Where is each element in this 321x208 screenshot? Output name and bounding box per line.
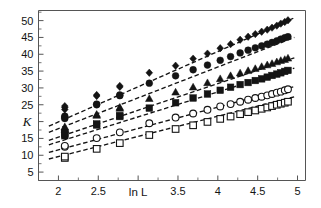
data-point-open-square: [252, 107, 259, 114]
data-point-filled-square: [117, 112, 124, 119]
data-point-filled-square: [285, 67, 292, 74]
data-point-open-circle: [245, 96, 252, 103]
series-layer: [49, 17, 294, 162]
data-point-open-square: [217, 116, 224, 123]
data-point-filled-circle: [204, 62, 211, 69]
data-point-filled-diamond: [172, 62, 179, 69]
data-point-open-square: [227, 113, 234, 120]
data-point-filled-triangle: [93, 111, 101, 118]
data-point-open-square: [204, 119, 211, 126]
data-point-filled-circle: [61, 113, 68, 120]
data-point-filled-diamond: [204, 50, 211, 57]
data-point-open-circle: [93, 135, 100, 142]
data-point-filled-circle: [245, 47, 252, 54]
data-point-filled-circle: [172, 72, 179, 79]
data-point-filled-circle: [190, 66, 197, 73]
data-point-filled-square: [204, 91, 211, 98]
data-point-filled-square: [237, 81, 244, 88]
data-point-open-circle: [204, 106, 211, 113]
data-point-open-square: [285, 98, 292, 105]
data-point-filled-diamond: [93, 91, 100, 98]
plot-canvas: 5101525303540455022.53.544.55ln LK: [0, 0, 321, 208]
y-tick-label: 45: [21, 31, 33, 43]
data-point-filled-triangle: [236, 69, 244, 76]
x-tick-label: 2: [55, 185, 61, 197]
data-point-filled-circle: [252, 44, 259, 51]
data-point-open-circle: [116, 129, 123, 136]
y-tick-label: 5: [27, 166, 33, 178]
data-point-open-square: [93, 146, 100, 153]
chart-figure: 5101525303540455022.53.544.55ln LK: [0, 0, 321, 208]
data-point-open-square: [237, 111, 244, 118]
data-point-filled-diamond: [258, 28, 265, 35]
data-point-open-circle: [172, 114, 179, 121]
data-point-open-circle: [237, 98, 244, 105]
data-point-filled-triangle: [61, 123, 69, 130]
data-point-open-square: [190, 122, 197, 129]
data-point-filled-square: [172, 99, 179, 106]
y-axis-title: K: [22, 114, 33, 129]
data-point-open-circle: [227, 101, 234, 108]
x-tick-label: 4: [215, 185, 221, 197]
data-point-open-circle: [146, 120, 153, 127]
data-point-filled-square: [146, 105, 153, 112]
data-point-filled-circle: [93, 101, 100, 108]
data-point-filled-circle: [116, 92, 123, 99]
data-point-open-circle: [285, 86, 292, 93]
data-point-open-square: [62, 153, 69, 160]
y-tick-label: 35: [21, 65, 33, 77]
data-point-filled-square: [190, 95, 197, 102]
x-tick-label: 5: [294, 185, 300, 197]
data-point-filled-triangle: [227, 72, 235, 79]
data-point-filled-square: [245, 79, 252, 86]
data-point-filled-triangle: [189, 83, 197, 90]
data-point-filled-diamond: [116, 82, 123, 89]
data-point-filled-circle: [237, 50, 244, 57]
data-point-filled-circle: [217, 57, 224, 64]
y-tick-label: 40: [21, 48, 33, 60]
trend-line-series-2: [49, 37, 294, 132]
data-point-filled-square: [217, 87, 224, 94]
data-point-open-square: [172, 126, 179, 133]
data-point-filled-diamond: [146, 69, 153, 76]
data-point-filled-circle: [227, 53, 234, 60]
data-point-filled-triangle: [204, 79, 212, 86]
series-series-5: [49, 86, 294, 153]
data-point-open-circle: [217, 103, 224, 110]
data-point-filled-triangle: [244, 67, 252, 74]
data-point-open-square: [146, 132, 153, 139]
data-point-filled-triangle: [251, 65, 259, 72]
data-point-open-square: [245, 109, 252, 116]
data-point-open-square: [117, 140, 124, 147]
y-tick-label: 10: [21, 149, 33, 161]
x-axis-title: ln L: [129, 186, 148, 198]
y-tick-label: 50: [21, 15, 33, 27]
data-point-open-circle: [61, 142, 68, 149]
data-point-filled-triangle: [145, 95, 153, 102]
y-tick-label: 25: [21, 99, 33, 111]
data-point-open-circle: [190, 110, 197, 117]
y-tick-label: 15: [21, 132, 33, 144]
x-tick-label: 4.5: [250, 185, 265, 197]
data-point-filled-triangle: [216, 75, 224, 82]
data-point-filled-circle: [285, 33, 292, 40]
x-tick-label: 2.5: [91, 185, 106, 197]
data-point-filled-square: [93, 121, 100, 128]
y-tick-label: 30: [21, 82, 33, 94]
data-point-open-circle: [252, 95, 259, 102]
data-point-filled-square: [62, 130, 69, 137]
data-point-filled-square: [227, 84, 234, 91]
data-point-filled-square: [252, 77, 259, 84]
data-point-filled-diamond: [217, 45, 224, 52]
data-point-filled-circle: [146, 80, 153, 87]
data-point-filled-triangle: [172, 88, 180, 95]
x-tick-label: 3.5: [170, 185, 185, 197]
